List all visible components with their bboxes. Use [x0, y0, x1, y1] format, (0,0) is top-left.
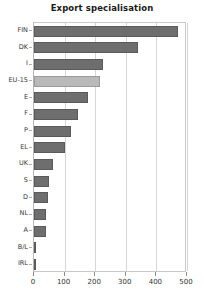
plot-area — [33, 22, 186, 272]
bar-row — [34, 90, 88, 107]
y-axis-tick — [29, 47, 32, 48]
bar-row — [34, 206, 46, 223]
x-axis-tick — [64, 272, 65, 276]
bar-row — [34, 106, 78, 123]
y-axis-label-e: E — [24, 89, 28, 106]
x-axis-label-200: 200 — [88, 278, 101, 286]
bar-irl — [34, 259, 36, 270]
y-axis-label-a: A — [24, 222, 28, 239]
bar-row — [34, 240, 36, 257]
y-axis-label-eu-15: EU-15 — [9, 72, 28, 89]
bar-row — [34, 190, 48, 207]
y-axis-tick — [29, 64, 32, 65]
y-axis-tick — [29, 230, 32, 231]
bar-row — [34, 223, 46, 240]
x-axis-label-400: 400 — [149, 278, 162, 286]
bar-f — [34, 109, 78, 120]
bar-row — [34, 156, 53, 173]
x-axis-tick — [155, 272, 156, 276]
chart-figure: Export specialisation FINDKIEU-15EFPELUK… — [0, 0, 204, 304]
bar-row — [34, 140, 65, 157]
y-axis-tick — [29, 264, 32, 265]
y-axis-label-s: S — [24, 172, 28, 189]
y-axis-label-dk: DK — [19, 39, 28, 56]
x-axis-labels: 0100200300400500 — [0, 278, 204, 292]
gridline — [187, 23, 188, 271]
bar-e — [34, 92, 88, 103]
y-axis-tick — [29, 147, 32, 148]
y-axis-label-el: EL — [20, 139, 28, 156]
y-axis-label-f: F — [24, 105, 28, 122]
y-axis-labels: FINDKIEU-15EFPELUKSDNLAB/LIRL — [0, 22, 31, 272]
bar-el — [34, 142, 65, 153]
y-axis-tick — [29, 130, 32, 131]
bar-row — [34, 123, 71, 140]
bar-i — [34, 59, 103, 70]
chart-title: Export specialisation — [0, 3, 204, 13]
x-axis-tick — [94, 272, 95, 276]
x-axis-label-0: 0 — [31, 278, 35, 286]
y-axis-tick — [29, 180, 32, 181]
bar-dk — [34, 42, 138, 53]
y-axis-label-i: I — [26, 55, 28, 72]
bar-row — [34, 23, 178, 40]
y-axis-tick — [29, 214, 32, 215]
y-axis-label-uk: UK — [19, 155, 28, 172]
bar-row — [34, 73, 100, 90]
bar-s — [34, 176, 49, 187]
x-axis-label-300: 300 — [118, 278, 131, 286]
y-axis-tick — [29, 247, 32, 248]
bar-eu-15 — [34, 76, 100, 87]
bar-row — [34, 40, 138, 57]
y-axis-label-b-l: B/L — [18, 239, 28, 256]
bar-a — [34, 226, 46, 237]
y-axis-tick — [29, 197, 32, 198]
bar-nl — [34, 209, 46, 220]
x-axis-tick — [125, 272, 126, 276]
y-axis-label-irl: IRL — [18, 255, 28, 272]
x-axis-label-100: 100 — [57, 278, 70, 286]
y-axis-label-fin: FIN — [17, 22, 28, 39]
bar-row — [34, 256, 36, 273]
bar-d — [34, 192, 48, 203]
bar-b-l — [34, 242, 36, 253]
bar-row — [34, 173, 49, 190]
x-axis-tick — [186, 272, 187, 276]
bar-fin — [34, 26, 178, 37]
bar-uk — [34, 159, 53, 170]
y-axis-label-nl: NL — [20, 205, 28, 222]
x-axis-tick — [33, 272, 34, 276]
y-axis-tick — [29, 164, 32, 165]
y-axis-tick — [29, 30, 32, 31]
x-axis-label-500: 500 — [179, 278, 192, 286]
bar-p — [34, 126, 71, 137]
bar-series — [34, 23, 185, 271]
y-axis-label-d: D — [23, 189, 28, 206]
y-axis-tick — [29, 97, 32, 98]
y-axis-label-p: P — [24, 122, 28, 139]
bar-row — [34, 56, 103, 73]
y-axis-tick — [29, 80, 32, 81]
y-axis-tick — [29, 114, 32, 115]
